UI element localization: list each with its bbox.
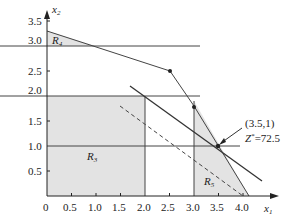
x-tick-label: 0.5 [63, 201, 77, 213]
y-tick-label: 2.0 [28, 84, 42, 96]
vertex-point [192, 105, 196, 109]
y-tick-label: 1.0 [28, 140, 42, 152]
optimal-point-coords: (3.5,1) [245, 117, 275, 130]
diagram-canvas: 0 0.5 1.0 1.5 2.0 2.5 3.0 3.5 4.0 0.5 1.… [0, 0, 288, 218]
x-tick-label: 3.5 [210, 201, 224, 213]
x-tick-label: 4.0 [235, 201, 249, 213]
vertex-point [168, 69, 172, 73]
y-tick-label: 1.5 [28, 115, 42, 127]
x-tick-label: 3.0 [186, 201, 200, 213]
x-tick-label: 2.0 [137, 201, 151, 213]
y-axis-label: x2 [51, 3, 61, 17]
x-axis-label: x1 [263, 202, 272, 216]
y-tick-label: 3.5 [28, 15, 42, 27]
x-tick-label: 2.5 [161, 201, 175, 213]
annotation-arrowhead [219, 138, 226, 145]
y-axis-arrow-icon [44, 10, 50, 19]
optimal-value: Z*=72.5 [245, 132, 281, 144]
x-tick-label: 0 [43, 201, 49, 213]
x-tick-label: 1.5 [112, 201, 126, 213]
y-tick-label: 3.0 [28, 34, 42, 46]
y-tick-label: 0.5 [28, 165, 42, 177]
x-axis-arrow-icon [270, 193, 279, 199]
y-tick-label: 2.5 [28, 65, 42, 77]
x-tick-label: 1.0 [88, 201, 102, 213]
